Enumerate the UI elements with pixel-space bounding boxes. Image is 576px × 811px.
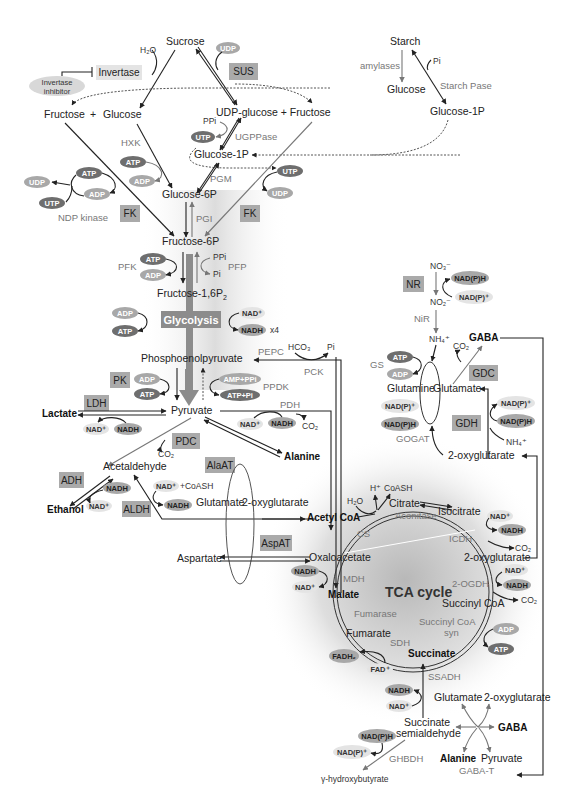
mdh-label: MDH xyxy=(343,573,365,584)
svg-text:NAD⁺: NAD⁺ xyxy=(156,482,176,491)
svg-text:PK: PK xyxy=(113,375,127,386)
nadp-pill-gdh: NAD(P)⁺ xyxy=(497,396,535,410)
atp-pill-pk: ATP xyxy=(134,388,160,400)
atp-pill-pfk: ATP xyxy=(140,253,166,265)
nadp-pill-gogat: NAD(P)⁺ xyxy=(381,399,419,413)
svg-text:NR: NR xyxy=(406,279,420,290)
svg-text:ADP: ADP xyxy=(117,309,133,318)
glutamate-nitrogen-label: Glutamate xyxy=(433,382,482,394)
svg-text:NAD⁺: NAD⁺ xyxy=(389,702,409,711)
ghbdh-label: GHBDH xyxy=(389,753,423,764)
svg-text:ADP: ADP xyxy=(498,625,514,634)
sus-enzyme-box: SUS xyxy=(229,63,258,80)
svg-text:GDH: GDH xyxy=(455,418,477,429)
gogat-label: GOGAT xyxy=(396,433,430,444)
svg-text:LDH: LDH xyxy=(86,398,106,409)
oxyglutarate-nitrogen-label: 2-oxyglutarate xyxy=(448,449,515,461)
nh4-gdh-label: NH₄⁺ xyxy=(506,437,527,447)
ugppase-label: UGPPase xyxy=(235,131,277,142)
svg-text:Invertase: Invertase xyxy=(98,67,140,78)
pk-enzyme-box: PK xyxy=(110,372,130,388)
nr-enzyme-box: NR xyxy=(403,276,424,292)
udp-pill-fk-right: UDP xyxy=(267,187,293,199)
svg-text:UTP: UTP xyxy=(196,133,211,142)
svg-text:NAD(P)⁺: NAD(P)⁺ xyxy=(385,402,415,411)
svg-text:NAD⁺: NAD⁺ xyxy=(242,309,262,318)
svg-text:UDP: UDP xyxy=(29,178,45,187)
alaat-aspat-ellipse xyxy=(226,464,254,584)
udp-pill-sus: UDP xyxy=(216,42,240,54)
hco3-label: HCO₃ xyxy=(288,342,310,352)
svg-text:FAD⁺: FAD⁺ xyxy=(371,665,390,674)
h2o-tca-label: H₂O xyxy=(347,496,363,506)
glucose-label: Glucose xyxy=(103,108,142,120)
svg-text:NAD(P)⁺: NAD(P)⁺ xyxy=(501,399,531,408)
pi-starch-label: Pi xyxy=(433,56,441,66)
nadh-pill-ogdh: NADH xyxy=(503,579,531,591)
nad-coash-pill-aldh: NAD⁺ xyxy=(153,480,179,492)
fumarate-label: Fumarate xyxy=(346,627,391,639)
pyruvate-gaba-label: Pyruvate xyxy=(481,752,523,764)
nad-pill-glycolysis: NAD⁺ xyxy=(239,307,265,319)
svg-text:NADH: NADH xyxy=(501,526,523,535)
svg-text:NADH: NADH xyxy=(294,567,316,576)
nadh-pill-adh: NADH xyxy=(103,482,131,494)
svg-text:FK: FK xyxy=(244,208,257,219)
svg-text:NAD⁺: NAD⁺ xyxy=(86,425,106,434)
nadp-pill-ghbdh: NAD(P)⁺ xyxy=(333,745,371,759)
svg-text:NAD⁺: NAD⁺ xyxy=(490,512,510,521)
starch-label: Starch xyxy=(390,35,421,47)
nad-pill-icdh: NAD⁺ xyxy=(487,510,513,522)
svg-text:ATP+Pi: ATP+Pi xyxy=(227,391,253,400)
adp-pill-pfk: ADP xyxy=(140,269,166,281)
svg-text:ALDH: ALDH xyxy=(123,504,150,515)
fructose-label: Fructose xyxy=(44,108,85,120)
glutamine-label: Glutamine xyxy=(387,382,435,394)
fadh2-pill: FADH₂ xyxy=(329,649,359,663)
svg-text:UTP: UTP xyxy=(45,199,60,208)
adp-pill-ndp: ADP xyxy=(84,188,110,200)
amp-ppi-pill-ppdk: AMP+PPi xyxy=(219,373,261,385)
svg-text:SUS: SUS xyxy=(233,66,254,77)
glucose-6p-label: Glucose-6P xyxy=(162,188,217,200)
svg-text:AspAT: AspAT xyxy=(261,538,290,549)
aspartate-label: Aspartate xyxy=(177,552,222,564)
gaba-t-label: GABA-T xyxy=(459,765,495,776)
scs-label-line2: syn xyxy=(444,627,459,638)
pdc-enzyme-box: PDC xyxy=(172,433,200,449)
sucrose-label: Sucrose xyxy=(166,35,205,47)
aspat-enzyme-box: AspAT xyxy=(260,535,292,551)
pgi-label: PGI xyxy=(196,213,212,224)
fk-left-enzyme-box: FK xyxy=(120,205,140,222)
svg-text:NADH: NADH xyxy=(106,484,128,493)
svg-text:NAD(P)H: NAD(P)H xyxy=(384,420,416,429)
co2-pdh-label: CO₂ xyxy=(302,421,318,431)
nadph-pill-nr: NAD(P)H xyxy=(451,271,489,285)
oxyglutarate-transamination-label: 2-oxyglutarate xyxy=(242,496,309,508)
nad-pill-pdh: NAD⁺ xyxy=(237,418,263,430)
inhibition-line xyxy=(62,72,92,76)
h-plus-label: H⁺ xyxy=(370,483,381,493)
udp-pill-ndp: UDP xyxy=(24,176,50,188)
gaba-label: GABA xyxy=(498,722,527,733)
sdh-label: SDH xyxy=(390,637,410,648)
svg-text:NADH: NADH xyxy=(388,686,410,695)
malate-label: Malate xyxy=(328,589,360,600)
svg-text:ADP: ADP xyxy=(145,271,161,280)
citrate-label: Citrate xyxy=(389,497,420,509)
svg-text:NADH: NADH xyxy=(241,326,263,335)
scs-label-line1: Succinyl CoA xyxy=(419,616,476,627)
ethanol-label: Ethanol xyxy=(47,504,84,515)
adh-enzyme-box: ADH xyxy=(59,472,84,488)
fumarase-label: Fumarase xyxy=(354,608,397,619)
nadh-pill-mdh: NADH xyxy=(291,565,319,577)
co2-pdc-label: CO₂ xyxy=(158,449,174,459)
ppi-label: PPi xyxy=(203,116,216,126)
adp-pill-gs: ADP xyxy=(387,368,413,380)
cs-label: CS xyxy=(357,528,370,539)
isocitrate-label: Isocitrate xyxy=(438,505,481,517)
pi-pepc-label: Pi xyxy=(327,342,335,352)
nadph-pill-gdh: NAD(P)H xyxy=(497,414,535,428)
utp-pill-ndp: UTP xyxy=(39,197,65,209)
svg-text:NAD⁺: NAD⁺ xyxy=(505,566,525,575)
